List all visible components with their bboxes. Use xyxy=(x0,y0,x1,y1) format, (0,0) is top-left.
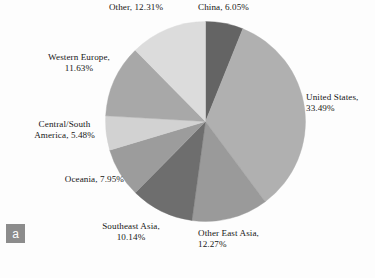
pie-label-other: Other, 12.31% xyxy=(88,2,184,13)
pie-label-china: China, 6.05% xyxy=(198,2,290,13)
panel-label-badge: a xyxy=(6,224,25,243)
pie-label-southeast-asia: Southeast Asia, 10.14% xyxy=(79,221,183,243)
pie-label-central-south-america: Central/South America, 5.48% xyxy=(8,119,121,141)
pie-label-western-europe: Western Europe, 11.63% xyxy=(21,52,137,74)
pie-label-other-east-asia: Other East Asia, 12.27% xyxy=(198,228,294,250)
figure-panel: China, 6.05% United States, 33.49% Other… xyxy=(0,0,375,278)
pie-label-oceania: Oceania, 7.95% xyxy=(26,174,124,185)
pie-label-united-states: United States, 33.49% xyxy=(306,92,375,114)
